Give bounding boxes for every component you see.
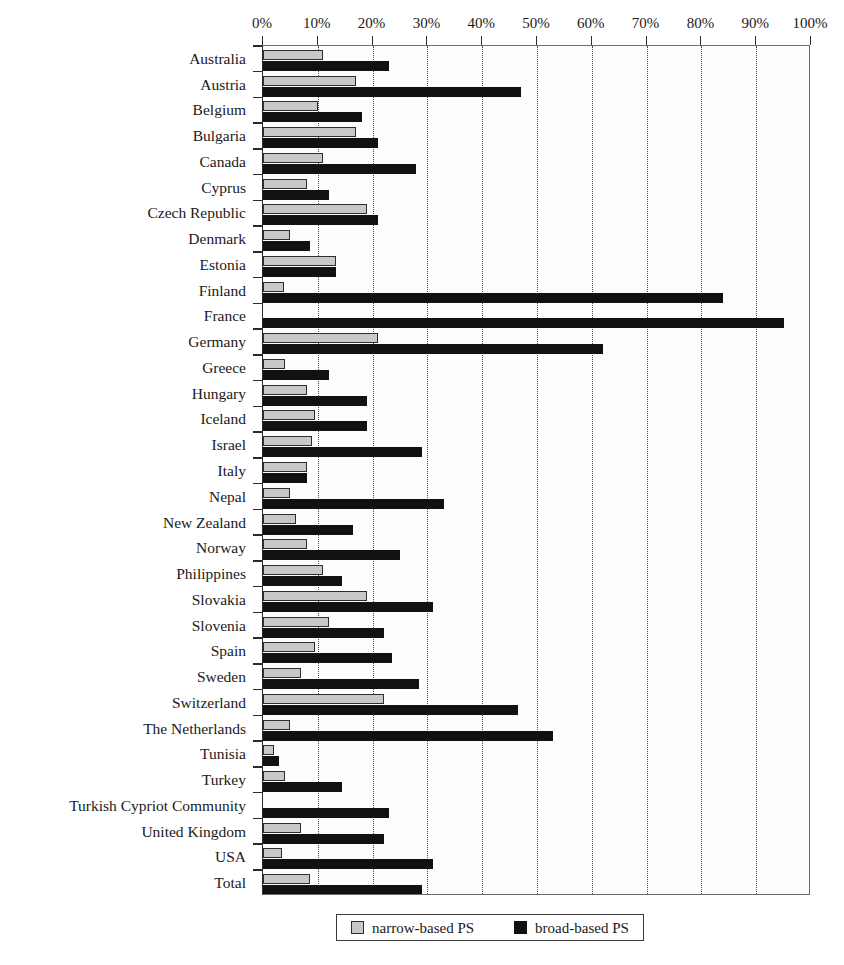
bar-narrow-based-ps [263,874,310,884]
y-tick-label: Turkish Cypriot Community [69,796,246,813]
y-tick-label: Slovakia [192,590,246,607]
legend-label: broad-based PS [535,920,629,936]
y-tick-label: Philippines [176,565,246,582]
y-tick-mark [253,251,262,253]
x-tick-label: 10% [303,14,331,32]
x-axis-tick-labels: 0%10%20%30%40%50%60%70%80%90%100% [0,14,844,36]
y-tick-mark [253,148,262,150]
y-tick-label: United Kingdom [141,822,246,839]
plot-area [262,45,810,895]
y-tick-mark [253,715,262,717]
x-tick-mark [481,36,482,45]
bar-group [263,844,809,870]
bar-group [263,819,809,845]
bar-group [263,149,809,175]
bar-group [263,664,809,690]
y-tick-label: USA [215,848,246,865]
y-tick-mark [253,869,262,871]
bar-broad-based-ps [263,808,389,818]
bar-broad-based-ps [263,602,433,612]
bar-group [263,870,809,895]
bar-group [263,381,809,407]
bar-narrow-based-ps [263,359,285,369]
bar-narrow-based-ps [263,617,329,627]
bar-narrow-based-ps [263,50,323,60]
y-tick-mark [253,431,262,433]
bar-broad-based-ps [263,885,422,895]
x-tick-mark [700,36,701,45]
x-tick-mark [646,36,647,45]
bar-narrow-based-ps [263,230,290,240]
y-tick-mark [253,71,262,73]
bar-broad-based-ps [263,241,310,251]
bar-broad-based-ps [263,782,342,792]
y-tick-mark [253,45,262,47]
bar-group [263,432,809,458]
bar-group [263,613,809,639]
bar-narrow-based-ps [263,204,367,214]
bar-narrow-based-ps [263,462,307,472]
y-tick-mark [253,406,262,408]
bar-narrow-based-ps [263,436,312,446]
bar-narrow-based-ps [263,642,315,652]
y-tick-mark [253,457,262,459]
bar-narrow-based-ps [263,745,274,755]
bar-narrow-based-ps [263,179,307,189]
bar-narrow-based-ps [263,282,284,292]
x-tick-mark [262,36,263,45]
bar-broad-based-ps [263,344,603,354]
bar-broad-based-ps [263,215,378,225]
y-tick-label: Spain [211,642,246,659]
bar-group [263,175,809,201]
y-tick-mark [253,586,262,588]
y-tick-label: Bulgaria [193,127,246,144]
y-tick-label: Switzerland [172,693,246,710]
y-tick-mark [253,560,262,562]
x-tick-label: 80% [687,14,715,32]
bar-narrow-based-ps [263,771,285,781]
bar-broad-based-ps [263,499,444,509]
bar-narrow-based-ps [263,488,290,498]
y-tick-label: Hungary [192,384,246,401]
bar-broad-based-ps [263,87,521,97]
bar-group [263,278,809,304]
legend-swatch-narrow [351,921,364,934]
y-tick-mark [253,509,262,511]
x-tick-label: 90% [741,14,769,32]
bar-broad-based-ps [263,370,329,380]
bar-group [263,98,809,124]
legend-label: narrow-based PS [372,920,474,936]
bar-group [263,510,809,536]
bar-broad-based-ps [263,447,422,457]
x-tick-mark [536,36,537,45]
bar-group [263,561,809,587]
y-tick-mark [253,200,262,202]
bar-group [263,767,809,793]
bar-narrow-based-ps [263,514,296,524]
y-tick-label: Australia [189,49,246,66]
bar-group [263,46,809,72]
x-tick-label: 50% [522,14,550,32]
x-tick-mark [755,36,756,45]
y-tick-label: Total [214,874,246,891]
y-tick-label: The Netherlands [143,719,246,736]
bar-group [263,741,809,767]
y-tick-label: Austria [200,75,246,92]
y-tick-label: France [204,307,246,324]
bar-narrow-based-ps [263,153,323,163]
bar-narrow-based-ps [263,76,356,86]
bar-chart: 0%10%20%30%40%50%60%70%80%90%100% Austra… [0,0,844,965]
y-tick-label: Cyprus [201,178,246,195]
bar-broad-based-ps [263,550,400,560]
bar-broad-based-ps [263,834,384,844]
y-tick-mark [253,534,262,536]
legend-entry: narrow-based PS [351,920,474,936]
y-tick-label: Estonia [200,255,247,272]
bar-broad-based-ps [263,112,362,122]
x-tick-mark [317,36,318,45]
y-tick-mark [253,740,262,742]
bar-broad-based-ps [263,679,419,689]
bar-group [263,535,809,561]
y-tick-mark [253,483,262,485]
bar-group [263,72,809,98]
